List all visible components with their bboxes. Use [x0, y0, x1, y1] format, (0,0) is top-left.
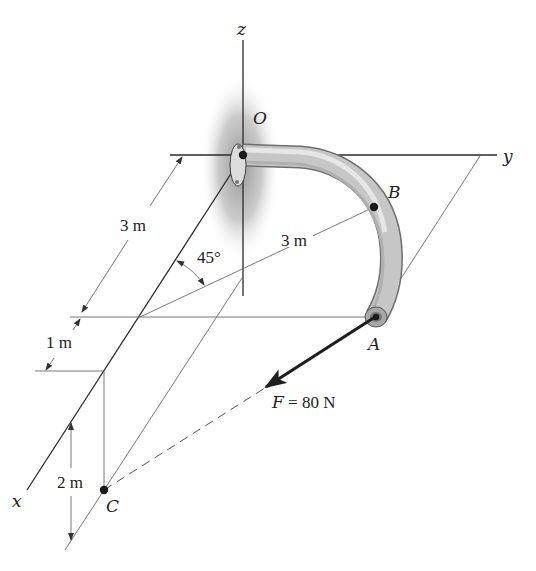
point-C	[100, 486, 108, 494]
force-label: F = 80 N	[271, 392, 335, 412]
wall-flange	[230, 144, 246, 186]
dimension-label-3m-B: 3 m	[281, 231, 307, 250]
point-A	[373, 314, 379, 320]
angle-label: 45°	[197, 248, 221, 267]
construction-line-through-C	[65, 278, 242, 550]
force-arrow-F	[266, 317, 375, 387]
dimension-label-1m: 1 m	[46, 333, 72, 352]
dimension-label-2m: 2 m	[57, 473, 83, 492]
dimension-label-3m-x: 3 m	[120, 216, 146, 235]
point-label-C: C	[106, 496, 119, 516]
dimension-3m-x-lower	[82, 240, 128, 312]
axis-label-z: z	[236, 19, 247, 39]
force-line-of-action	[104, 386, 268, 490]
dimension-1m	[73, 319, 80, 330]
point-label-O: O	[253, 108, 267, 128]
point-label-A: A	[366, 334, 380, 354]
dimension-1m-lower	[46, 358, 54, 370]
point-label-B: B	[387, 182, 401, 202]
construction-line-parallel-x-from-y	[400, 156, 480, 280]
pipe-force-diagram: z y x O B A C 3 m 1 m 2 m 3 m 45° F = 80…	[0, 0, 536, 571]
point-B	[370, 203, 378, 211]
x-axis	[27, 155, 243, 490]
force-value: = 80 N	[284, 393, 336, 412]
dimension-3m-x	[150, 157, 182, 206]
point-O	[239, 151, 247, 159]
axis-label-y: y	[502, 146, 513, 166]
axis-label-x: x	[12, 491, 22, 511]
